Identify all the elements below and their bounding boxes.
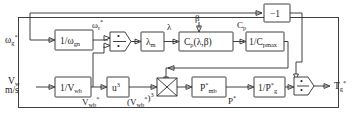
operator-divider-top-symbol-den: •	[117, 42, 120, 51]
block-diagram-container: 1/ωgn • • λm Cp(λ,β) 1/Cpmax −1 1/Vwb u3…	[0, 0, 357, 115]
signal-label-omega-r-ref: ωr*	[92, 18, 103, 31]
output-label-torque-g-ref: Tg*	[334, 79, 346, 92]
signal-label-lambda: λ	[167, 22, 172, 32]
signal-label-beta: β	[195, 13, 200, 23]
block-gain-minus-one-label: −1	[270, 9, 280, 19]
arrowhead-divider-top-lower	[104, 43, 110, 48]
operator-divider-top-symbol-num: •	[117, 32, 120, 41]
signal-label-v-wb-ref-cubed: (Vwb*)3	[127, 91, 154, 108]
wire-minus-one-to-divider	[290, 13, 302, 74]
input-label-omega-g-ref: ωg*	[5, 33, 18, 46]
signal-label-p-ref: P*	[228, 94, 236, 106]
arrowhead-divider-top-upper	[104, 36, 110, 41]
signal-label-cp: Cp	[237, 20, 246, 31]
wire-vwb-to-divider-lower	[93, 53, 104, 87]
input-label-wind-speed-unit: m/s	[5, 85, 19, 95]
block-cp-lambda-beta-label: Cp(λ,β)	[184, 37, 212, 48]
block-diagram-canvas: 1/ωgn • • λm Cp(λ,β) 1/Cpmax −1 1/Vwb u3…	[0, 0, 357, 115]
operator-divider-output-den: •	[300, 86, 303, 95]
operator-divider-output-num: •	[300, 77, 303, 86]
